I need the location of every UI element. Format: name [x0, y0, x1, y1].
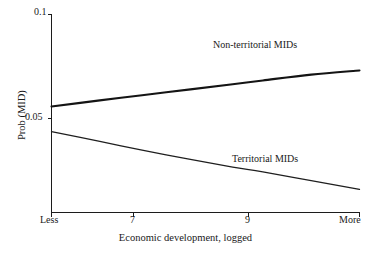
chart-figure: 0.1 0.05 Less 7 9 More Economic developm… [0, 0, 371, 253]
x-axis-tick-label-9: 9 [245, 215, 250, 225]
series-line-non-territorial-mids [52, 70, 360, 106]
y-axis-title: Prob (MID) [16, 90, 27, 140]
x-axis-tick-label-7: 7 [130, 215, 135, 225]
series-line-territorial-mids [52, 132, 360, 190]
x-axis-tick-label-less: Less [40, 215, 58, 225]
x-axis-tick-label-more: More [339, 215, 361, 225]
y-axis-tick-label-mid: 0.05 [25, 112, 43, 122]
x-axis-title: Economic development, logged [0, 232, 371, 243]
y-axis-tick-label-top: 0.1 [34, 7, 47, 17]
series-label-non-territorial-mids: Non-territorial MIDs [213, 39, 297, 50]
series-label-territorial-mids: Territorial MIDs [232, 153, 298, 164]
